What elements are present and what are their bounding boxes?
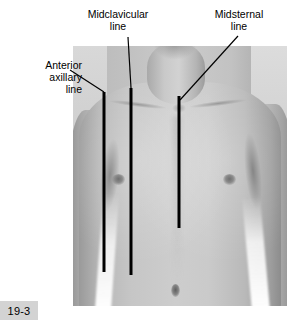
chest-photograph — [73, 46, 287, 306]
label-midclavicular-line: Midclavicular line — [71, 8, 165, 32]
label-anterior-axillary-line: Anterior axillary line — [6, 59, 82, 95]
nipple-left — [112, 174, 125, 185]
anatomy-figure: Anterior axillary line Midclavicular lin… — [0, 0, 298, 324]
label-midsternal-line: Midsternal line — [196, 8, 282, 32]
navel — [171, 284, 180, 297]
figure-number-badge: 19-3 — [0, 301, 38, 320]
sternum-shading — [173, 116, 181, 286]
nipple-right — [223, 174, 236, 185]
suprasternal-notch — [172, 104, 186, 113]
